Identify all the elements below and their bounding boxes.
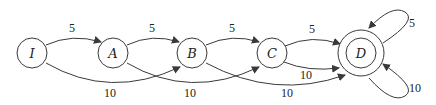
node-label-D: D: [355, 46, 367, 61]
node-label-I: I: [28, 46, 35, 61]
edge-A-B: [127, 38, 179, 45]
node-B: B: [177, 38, 207, 68]
node-label-B: B: [186, 46, 197, 61]
edge-label-I-B: 10: [104, 86, 116, 100]
edge-I-A: [46, 38, 101, 45]
edge-B-C: [206, 38, 259, 45]
node-A: A: [98, 38, 128, 68]
edge-label-C-D-10: 10: [300, 68, 312, 82]
edge-label-I-A: 5: [69, 21, 75, 35]
edge-label-C-D-5: 5: [309, 22, 315, 36]
node-label-A: A: [107, 46, 117, 61]
node-D-accepting: D: [338, 30, 384, 76]
edge-label-D-D-5: 5: [409, 16, 415, 30]
node-I: I: [17, 38, 47, 68]
node-C: C: [257, 38, 287, 68]
edge-label-B-D: 10: [281, 86, 293, 100]
edge-label-A-B: 5: [149, 21, 155, 35]
edge-label-D-D-10: 10: [409, 81, 421, 95]
edge-label-B-C: 5: [229, 21, 235, 35]
edge-C-D-5: [285, 39, 340, 46]
node-label-C: C: [267, 46, 277, 61]
edge-label-A-C: 10: [184, 86, 196, 100]
state-diagram: 5 10 5 10 5 10 5 10 5 10 I A B C D: [0, 0, 436, 105]
